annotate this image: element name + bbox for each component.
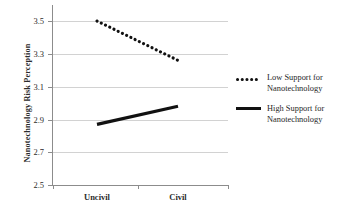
- legend-label-low-support: Low Support forNanotechnology: [267, 72, 346, 94]
- y-tick-label-2-7: 2.7: [16, 147, 44, 157]
- gridline-2-7: [53, 152, 228, 153]
- legend-label-high-support-line2: Nanotechnology: [267, 115, 322, 124]
- solid-line-icon: [236, 107, 261, 110]
- legend-label-high-support-line1: High Support for: [267, 104, 324, 113]
- gridline-3-3: [53, 54, 228, 55]
- x-tick-mark-left: [53, 185, 54, 189]
- y-tick-mark-3-3: [48, 54, 53, 55]
- y-tick-label-3-5: 3.5: [16, 16, 44, 26]
- y-tick-label-3-3: 3.3: [16, 49, 44, 59]
- y-tick-mark-3-5: [48, 21, 53, 22]
- chart-legend: Low Support forNanotechnology High Suppo…: [236, 72, 346, 134]
- gridline-3-1: [53, 87, 228, 88]
- legend-entry-high-support: High Support forNanotechnology: [236, 103, 346, 125]
- x-tick-mark-right: [228, 185, 229, 189]
- plot-area: [53, 5, 228, 185]
- gridline-3-5: [53, 21, 228, 22]
- legend-label-low-support-line1: Low Support for: [267, 73, 323, 82]
- legend-label-high-support: High Support forNanotechnology: [267, 103, 346, 125]
- gridline-2-9: [53, 120, 228, 121]
- y-tick-label-3-1: 3.1: [16, 82, 44, 92]
- x-tick-label-civil: Civil: [148, 191, 208, 203]
- y-tick-mark-2-9: [48, 120, 53, 121]
- dotted-line-icon: [236, 77, 261, 82]
- chart-figure: Nanotechnology Risk Perception 3.5 3.3 3…: [0, 0, 349, 217]
- x-tick-mark-middle: [138, 185, 139, 189]
- legend-entry-low-support: Low Support forNanotechnology: [236, 72, 346, 94]
- y-tick-label-2-5: 2.5: [16, 180, 44, 190]
- legend-label-low-support-line2: Nanotechnology: [267, 84, 322, 93]
- y-tick-mark-2-7: [48, 152, 53, 153]
- x-tick-label-uncivil: Uncivil: [67, 191, 127, 203]
- x-axis-line: [53, 185, 229, 186]
- y-tick-label-2-9: 2.9: [16, 115, 44, 125]
- y-axis-title: Nanotechnology Risk Perception: [21, 18, 35, 188]
- y-tick-mark-3-1: [48, 87, 53, 88]
